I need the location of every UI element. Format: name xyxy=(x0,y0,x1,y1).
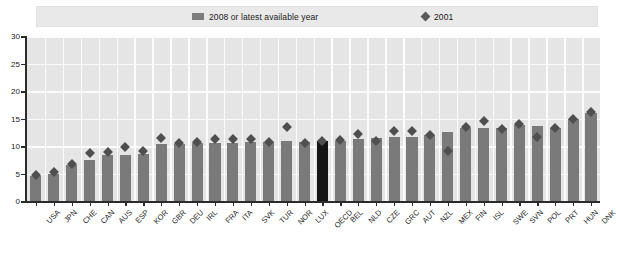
bar-kor xyxy=(138,154,149,201)
x-axis-tick-mark xyxy=(143,202,144,206)
x-axis-tick-mark xyxy=(537,202,538,206)
bar-nzl xyxy=(424,135,435,201)
bar-cze xyxy=(371,138,382,201)
chart-legend: 2008 or latest available year 2001 xyxy=(36,6,598,27)
bar-deu xyxy=(174,144,185,201)
bar-grc xyxy=(389,137,400,201)
bar-bel xyxy=(335,141,346,202)
bar-oecd xyxy=(317,141,328,202)
bar-tur xyxy=(263,142,274,201)
gridline-vertical xyxy=(403,36,405,201)
gridline-vertical xyxy=(260,36,262,201)
bar-aus xyxy=(102,155,113,201)
x-axis-label-deu: DEU xyxy=(188,208,206,226)
gridline-vertical xyxy=(510,36,512,201)
gridline-vertical xyxy=(152,36,154,201)
x-axis-label-nzl: NZL xyxy=(438,208,455,225)
bar-svn xyxy=(514,125,525,201)
bar-aut xyxy=(406,137,417,201)
x-axis-label-can: CAN xyxy=(98,208,116,226)
bar-irl xyxy=(192,143,203,201)
gridline-vertical xyxy=(188,36,190,201)
bar-dnk xyxy=(585,113,596,201)
y-axis-tick-label: 15 xyxy=(1,114,20,123)
gridline-vertical xyxy=(546,36,548,201)
legend-label-diamond-series: 2001 xyxy=(434,12,453,22)
bar-ita xyxy=(227,143,238,201)
x-axis-tick-mark xyxy=(90,202,91,206)
x-axis-label-svn: SVN xyxy=(528,208,545,225)
bar-jpn xyxy=(48,174,59,202)
gridline-vertical xyxy=(421,36,423,201)
x-axis-label-usa: USA xyxy=(45,208,62,225)
gridline-vertical xyxy=(224,36,226,201)
y-axis-tick-mark xyxy=(21,146,26,148)
gridline-vertical xyxy=(278,36,280,201)
x-axis-label-nld: NLD xyxy=(367,208,384,225)
x-axis-label-prt: PRT xyxy=(564,208,581,225)
x-axis-tick-mark xyxy=(430,202,431,206)
bar-gbr xyxy=(156,144,167,201)
bar-hun xyxy=(568,119,579,202)
x-axis-line xyxy=(25,201,600,203)
bar-prt xyxy=(550,128,561,201)
x-axis-label-che: CHE xyxy=(80,208,98,226)
diamond-marker-nor xyxy=(282,122,292,132)
gridline-vertical xyxy=(331,36,333,201)
x-axis-label-gbr: GBR xyxy=(170,208,188,226)
x-axis-label-dnk: DNK xyxy=(600,208,617,226)
bar-swatch-icon xyxy=(192,13,204,20)
bar-can xyxy=(84,160,95,201)
gridline-vertical xyxy=(63,36,65,201)
bar-fin xyxy=(460,128,471,201)
x-axis-tick-mark xyxy=(125,202,126,206)
y-axis-tick-label: 30 xyxy=(1,32,20,41)
x-axis-tick-mark xyxy=(36,202,37,206)
x-axis-label-pol: POL xyxy=(546,208,563,225)
x-axis-tick-mark xyxy=(555,202,556,206)
x-axis-tick-mark xyxy=(161,202,162,206)
gridline-vertical xyxy=(457,36,459,201)
x-axis-label-hun: HUN xyxy=(582,208,600,226)
x-axis-tick-mark xyxy=(269,202,270,206)
x-axis-label-fra: FRA xyxy=(223,208,240,225)
x-axis-tick-mark xyxy=(179,202,180,206)
gridline-vertical xyxy=(242,36,244,201)
x-axis-tick-mark xyxy=(412,202,413,206)
gridline-vertical xyxy=(367,36,369,201)
x-axis-label-isl: ISL xyxy=(491,208,505,222)
y-axis-tick-mark xyxy=(21,36,26,38)
gridline-vertical xyxy=(99,36,101,201)
bar-mex xyxy=(442,132,453,201)
y-axis-tick-labels: 051015202530 xyxy=(0,32,20,207)
gridline-vertical xyxy=(81,36,83,201)
legend-item-diamond-series: 2001 xyxy=(422,7,453,26)
gridline-vertical xyxy=(134,36,136,201)
gridline-vertical xyxy=(385,36,387,201)
x-axis-label-cze: CZE xyxy=(385,208,402,225)
diamond-marker-icon xyxy=(421,12,431,22)
y-axis-tick-label: 10 xyxy=(1,142,20,151)
bar-nor xyxy=(281,141,292,201)
x-axis-tick-mark xyxy=(287,202,288,206)
bar-nld xyxy=(353,139,364,201)
legend-item-bar-series: 2008 or latest available year xyxy=(192,7,318,26)
y-axis-tick-mark xyxy=(21,64,26,66)
gridline-vertical xyxy=(117,36,119,201)
plot-wrapper: 051015202530 USAJPNCHECANAUSESPKORGBRDEU… xyxy=(0,32,604,259)
y-axis-tick-mark xyxy=(21,91,26,93)
x-axis-label-nor: NOR xyxy=(296,208,314,226)
diamond-marker-aut xyxy=(407,126,417,136)
bar-lux xyxy=(299,142,310,201)
gridline-vertical xyxy=(582,36,584,201)
bar-che xyxy=(66,165,77,201)
gridline-vertical xyxy=(475,36,477,201)
x-axis-tick-mark xyxy=(72,202,73,206)
diamond-marker-grc xyxy=(389,126,399,136)
x-axis-label-fin: FIN xyxy=(473,208,488,223)
x-axis-label-lux: LUX xyxy=(313,208,330,225)
x-axis-tick-mark xyxy=(108,202,109,206)
gridline-vertical xyxy=(314,36,316,201)
diamond-marker-gbr xyxy=(156,133,166,143)
x-axis-label-irl: IRL xyxy=(205,208,220,223)
